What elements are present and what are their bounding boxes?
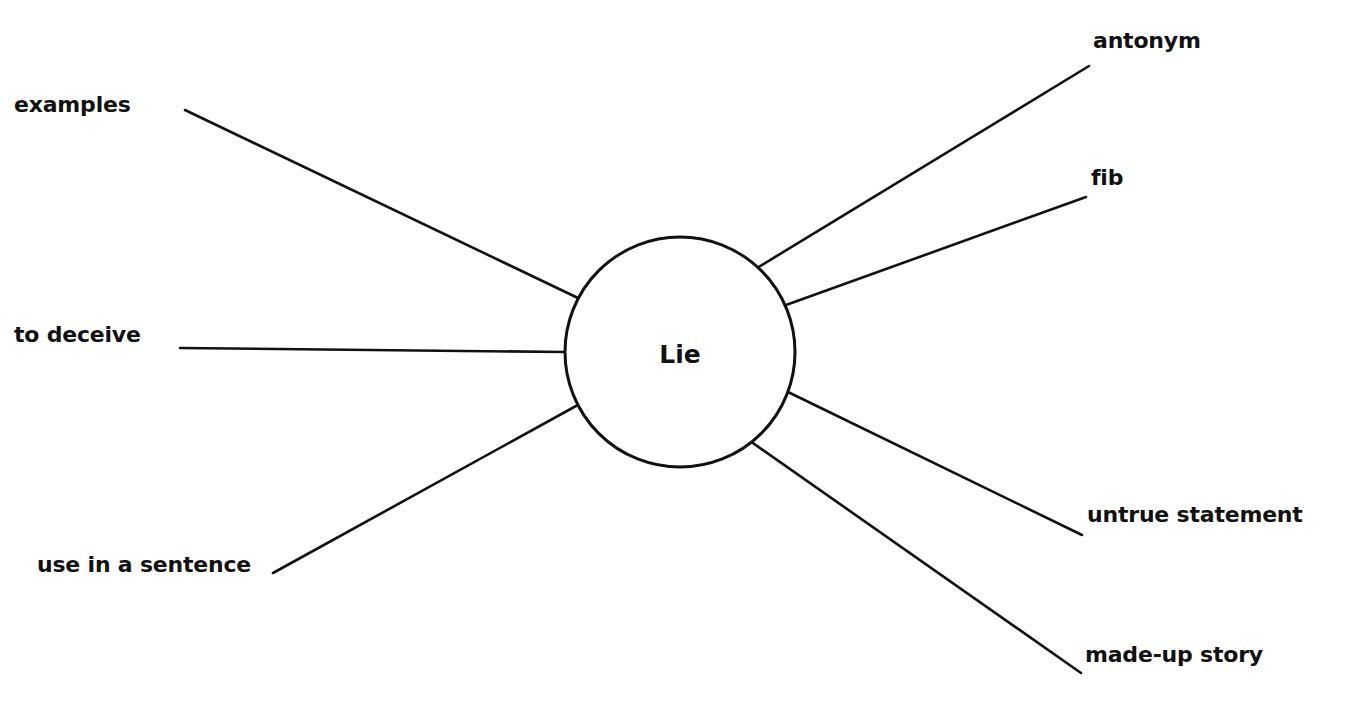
branch-label-fib: fib (1091, 167, 1123, 189)
branch-label-made-up-story: made-up story (1085, 644, 1263, 666)
connector-fib (786, 197, 1086, 305)
branch-label-antonym: antonym (1093, 30, 1201, 52)
branch-label-examples: examples (14, 94, 131, 116)
branch-label-untrue-statement: untrue statement (1087, 504, 1303, 526)
branch-label-use-in-a-sentence: use in a sentence (37, 554, 251, 576)
connector-untrue-statement (788, 392, 1082, 535)
word-web-diagram: Lie examples to deceive use in a sentenc… (0, 0, 1362, 721)
connector-use-in-a-sentence (273, 406, 576, 573)
connector-antonym (757, 66, 1089, 268)
connector-to-deceive (180, 348, 565, 352)
branch-label-to-deceive: to deceive (14, 324, 141, 346)
connector-made-up-story (750, 441, 1081, 673)
connector-examples (185, 110, 578, 298)
center-word: Lie (659, 342, 700, 367)
